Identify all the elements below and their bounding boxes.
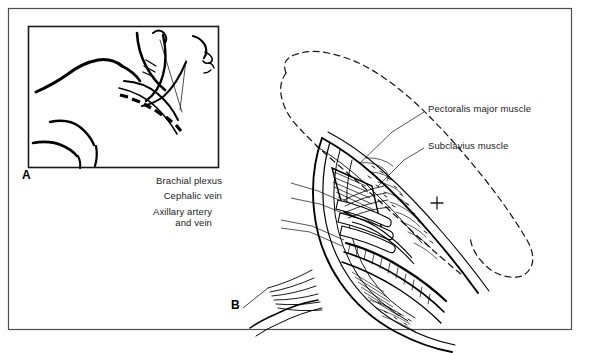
- label-pectoralis-major: Pectoralis major muscle: [428, 103, 531, 114]
- label-brachial-plexus: Brachial plexus: [130, 175, 222, 186]
- anatomical-figure: Pectoralis major muscle Subclavius muscl…: [0, 0, 590, 353]
- inset-panel-a: [29, 27, 219, 169]
- figure-canvas: [0, 0, 590, 353]
- label-axillary-vein: and vein: [120, 217, 212, 228]
- panel-letter-a: A: [22, 168, 31, 182]
- label-axillary-artery: Axillary artery: [120, 206, 212, 217]
- label-subclavius: Subclavius muscle: [428, 140, 508, 151]
- label-cephalic-vein: Cephalic vein: [130, 190, 222, 201]
- panel-letter-b: B: [231, 298, 240, 312]
